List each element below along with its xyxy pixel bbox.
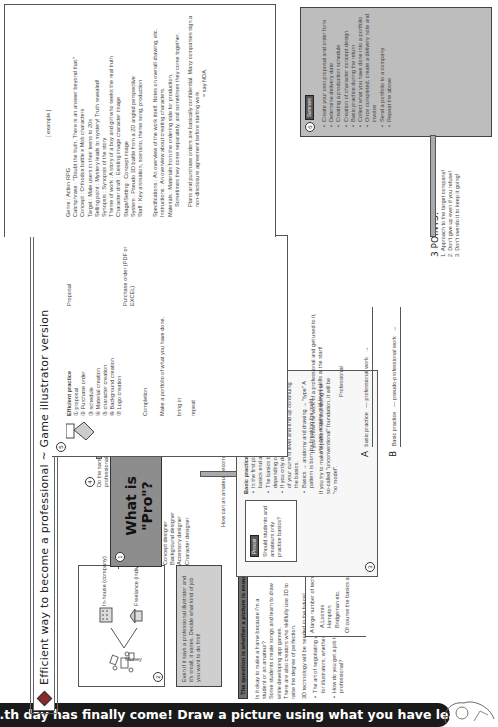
question-p2: Some students create songs and learn to … [268, 579, 282, 699]
example-row: Concept : Orthodox battle x Mob characte… [79, 7, 86, 217]
money-label: Money [125, 656, 142, 663]
present-question: Should students and amateurs only practi… [262, 505, 284, 557]
summary-item: Basic practice during the return [350, 6, 357, 122]
page: ...th day has finally come! Draw a pictu… [0, 0, 498, 727]
house-icon [129, 608, 147, 624]
row-b-basic: Basic practice [391, 412, 397, 447]
role-item: Concept designer [162, 455, 169, 565]
point-item: 2. Don't give up even if you refuse! [447, 117, 454, 257]
summary-item: Once completed, create a delivery note a… [364, 6, 378, 122]
section-4-number: 4 [85, 477, 95, 487]
section-5-number: 5 [56, 442, 66, 452]
practice-step: ② Purchase order [80, 326, 87, 416]
practice-flow: Completion Make a portfolio of what you … [142, 246, 197, 416]
summary-item: Determine delivery date [328, 6, 335, 122]
row-a-label: A [360, 451, 370, 457]
example-row: Genre : Action RPG [65, 7, 72, 217]
proposal-label: Proposal [66, 284, 73, 306]
row-b-label: B [388, 451, 398, 457]
example-row: Catchphrase : "Doubt the truth. There is… [72, 7, 79, 217]
what-is-pro-box: 1 What is "Pro"? [110, 455, 162, 567]
example-box: [ example ] Genre : Action RPG Catchphra… [4, 4, 276, 237]
po-row: Specifications : An overview of the work… [152, 7, 159, 217]
practice-step: ⑦ Logo creation [116, 326, 123, 416]
example-row: Selling point : Mystery leads to mystery… [94, 7, 101, 217]
practice-step: ④ Material creation [95, 326, 102, 416]
tip-text: Even if it says a professional illustrat… [177, 566, 207, 686]
practice-step: ③ schedule [88, 326, 95, 416]
role-item: Character designer [184, 455, 191, 565]
flow-completion: Completion [142, 246, 149, 416]
tip-box: Even if it says a professional illustrat… [176, 565, 222, 687]
question-p3: There are also creators who skillfully u… [283, 579, 297, 699]
practice-step: ⑤ character creation [102, 326, 109, 416]
section-2-number: 2 [153, 672, 163, 682]
row-a-target: professional work [363, 357, 369, 401]
role-item: Background designer [169, 455, 176, 565]
summary-item: Send a portfolio to a company [379, 6, 386, 122]
flow-portfolio: Make a portfolio of what you have done. [159, 246, 166, 416]
practice-step: ⑥ Background creation [109, 326, 116, 416]
compare-row-b: B Basic practice — pseudo-professional w… [382, 277, 401, 457]
summary-item: Creating a production schedule [335, 6, 342, 122]
example-row: Staff : Key animation, scenario, theme s… [137, 7, 144, 217]
purchase-order-label: Purchase order (PDF or EXCEL) [122, 246, 136, 306]
diamond-icon [36, 691, 52, 707]
point-item: 1. Approach to the target company! [440, 117, 447, 257]
nda-eq: = say NDA. [201, 7, 208, 217]
summary-list: Create your own proposal and order form … [321, 6, 393, 128]
practice-icon [66, 420, 100, 442]
po-row: Materials : Materials from the ordering … [167, 7, 174, 217]
question-p1: Is it okay to make a frame because I'm a… [254, 579, 268, 699]
example-row: Stage/Setting : Concept image [123, 7, 130, 217]
section-5-box: 5 Efficient practice ① proposal ② Purcha… [52, 235, 288, 457]
arrow-summary-to-points [430, 135, 436, 237]
summary-box: 6 Summary Create your own proposal and o… [300, 7, 492, 137]
what-is-pro-heading: What is "Pro"? [123, 464, 155, 548]
role-item: Accessory designer [176, 455, 183, 565]
row-a-basic: basic practice [363, 412, 369, 446]
point-item: 3. Don't overdo it to keep it going! [454, 117, 461, 257]
example-row: Theme of work : A story of a boy and gir… [108, 7, 115, 217]
summary-item: Creation of character concept design [343, 6, 350, 122]
roles-list: Concept designer Background designer Acc… [162, 455, 191, 565]
summary-item: Collect what you have done into a portfo… [357, 6, 364, 122]
example-row: System : Pseudo 3D battle from a 2D angl… [130, 7, 137, 217]
section-6-number: 6 [305, 122, 315, 132]
practice-step: ① proposal [73, 326, 80, 416]
section-3-number: 3 [365, 562, 375, 572]
split-lines [109, 624, 143, 648]
compare-box: If you know the work of a professional a… [310, 267, 430, 457]
example-rows: Genre : Action RPG Catchphrase : "Doubt … [65, 7, 209, 217]
compare-professional: Professional [338, 366, 345, 397]
summary-item: Create your own proposal and order form [321, 6, 328, 122]
inhouse-label: In-house (company) [101, 556, 108, 606]
company-building-icon [97, 606, 117, 624]
section-2-box: 2 Money In-house (company) Freelance (in… [78, 565, 165, 687]
practice-heading: Efficient practice [66, 326, 73, 416]
example-row: Character draft : Existing image charact… [115, 7, 122, 217]
example-row: Target : Male users in their teens to 20… [87, 7, 94, 217]
mascot-illustration [440, 697, 498, 727]
flow-repeat: repeat [190, 246, 197, 416]
section-1-number: 1 [115, 552, 125, 562]
po-note: Sometimes they come separately, and some… [174, 7, 181, 217]
nda-note: Plans and purchase orders are basically … [187, 7, 201, 217]
present-tag: Present [250, 535, 259, 557]
po-row: Instructions : An overview about creatin… [159, 7, 166, 217]
compare-row-a: A basic practice — professional work → [354, 277, 373, 457]
summary-item: Repeat the above [386, 6, 393, 122]
example-row: Synopsis : Synopsis of the story [101, 7, 108, 217]
compare-intro: If you know the work of a professional a… [310, 303, 324, 453]
practice-steps: Efficient practice ① proposal ② Purchase… [66, 326, 124, 416]
bottom-banner: ...th day has finally come! Draw a pictu… [0, 703, 450, 727]
page-title: Efficient way to become a professional ~… [38, 310, 51, 685]
flow-bring-in: bring in [176, 246, 183, 416]
present-box: Present Should students and amateurs onl… [245, 500, 297, 562]
summary-tag: Summary [305, 95, 314, 120]
banner-text: ...th day has finally come! Draw a pictu… [0, 703, 450, 727]
example-heading: [ example ] [45, 110, 52, 137]
row-b-target: pseudo-professional work [391, 336, 397, 400]
